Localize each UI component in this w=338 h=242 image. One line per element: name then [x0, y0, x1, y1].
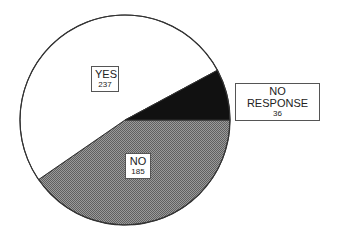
label-no-value: 185: [129, 168, 147, 177]
label-yes: YES 237: [91, 66, 119, 92]
label-yes-value: 237: [95, 81, 115, 90]
pie-slices: [20, 15, 230, 225]
label-no-response-value: 36: [239, 110, 316, 119]
label-yes-name: YES: [95, 68, 115, 80]
label-no-response-name: NO RESPONSE: [239, 85, 316, 109]
pie-chart: [0, 0, 338, 242]
label-no: NO 185: [125, 153, 151, 179]
label-no-name: NO: [129, 155, 147, 167]
label-no-response: NO RESPONSE 36: [235, 83, 320, 121]
